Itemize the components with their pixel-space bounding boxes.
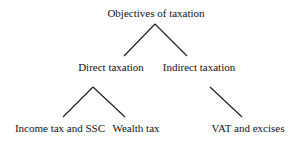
edge-objectives-to-direct	[124, 24, 155, 56]
edge-direct-to-wealth	[93, 87, 125, 117]
node-income-tax-and-ssc: Income tax and SSC	[15, 122, 105, 134]
node-indirect-taxation: Indirect taxation	[163, 61, 235, 73]
node-direct-taxation: Direct taxation	[78, 61, 144, 73]
node-wealth-tax: Wealth tax	[112, 122, 159, 134]
node-objectives-of-taxation: Objectives of taxation	[107, 7, 204, 19]
taxation-objectives-tree: Objectives of taxation Direct taxation I…	[0, 0, 297, 143]
edge-objectives-to-indirect	[155, 24, 187, 56]
node-vat-and-excises: VAT and excises	[212, 122, 285, 134]
edge-direct-to-income	[63, 87, 93, 117]
edge-indirect-to-vat	[210, 87, 242, 117]
